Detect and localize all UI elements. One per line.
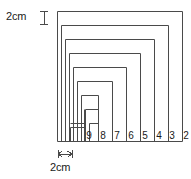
gnomon-band-1 [58,12,183,142]
gnomon-band-3 [66,40,155,142]
double-arrow-horizontal-icon [58,150,72,158]
band-label-6: 6 [128,130,134,141]
band-label-3: 3 [169,130,175,141]
band-label-4: 4 [156,130,162,141]
band-label-9: 9 [86,130,92,141]
horizontal-measurement-label: 2cm [50,162,70,173]
band-label-5: 5 [142,130,148,141]
band-label-8: 8 [100,130,106,141]
band-number-labels: 9 8 7 6 5 4 3 2 [86,130,189,141]
gnomon-band-4 [70,54,141,142]
gnomon-band-6 [78,82,113,142]
gnomon-figure: 9 8 7 6 5 4 3 2 2cm 2cm [0,0,191,179]
band-label-7: 7 [114,130,120,141]
gnomon-diagram-svg: 9 8 7 6 5 4 3 2 [0,0,191,179]
band-label-2: 2 [183,130,189,141]
gnomon-outlines [58,12,183,142]
vertical-measurement-label: 2cm [6,11,26,22]
i-beam-vertical-icon [40,11,48,24]
